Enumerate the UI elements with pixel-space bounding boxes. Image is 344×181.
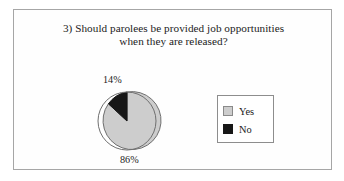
pie-chart: 14% 86%: [96, 72, 176, 172]
figure-root: 3) Should parolees be provided job oppor…: [0, 0, 344, 181]
chart-legend: Yes No: [217, 95, 274, 143]
chart-title: 3) Should parolees be provided job oppor…: [32, 22, 315, 48]
pie-label-yes: 86%: [120, 154, 139, 165]
pie-chart-svg: [96, 90, 158, 152]
legend-swatch-yes-icon: [223, 106, 233, 116]
pie-label-no: 14%: [103, 74, 122, 85]
legend-label-no: No: [239, 124, 252, 135]
figure-frame: 3) Should parolees be provided job oppor…: [13, 9, 332, 170]
legend-label-yes: Yes: [239, 106, 254, 117]
chart-title-line-2: when they are released?: [32, 35, 315, 48]
legend-item-no: No: [223, 120, 273, 138]
legend-swatch-no-icon: [223, 124, 233, 134]
chart-title-line-1: 3) Should parolees be provided job oppor…: [32, 22, 315, 35]
legend-item-yes: Yes: [223, 102, 273, 120]
